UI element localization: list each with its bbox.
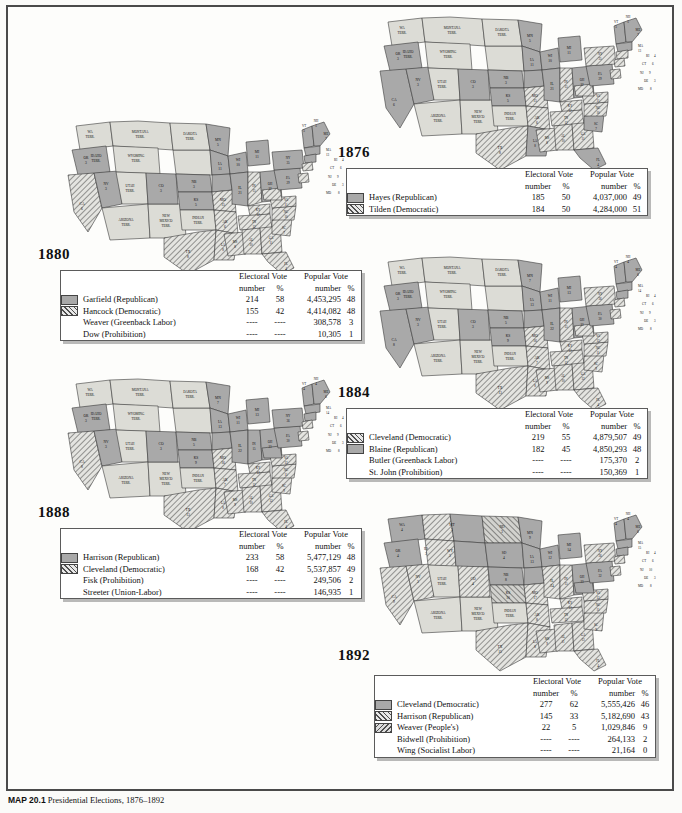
- legend-swatch-democratic: [61, 564, 78, 574]
- svg-text:14: 14: [638, 289, 642, 293]
- pop-number: 308,578: [291, 317, 341, 329]
- results-table-1888: Electoral Vote Popular Vote number % num…: [60, 528, 362, 599]
- svg-text:NJ: NJ: [640, 311, 644, 315]
- svg-text:8: 8: [338, 191, 340, 195]
- svg-text:13: 13: [186, 513, 190, 517]
- svg-text:TERR.: TERR.: [473, 617, 482, 621]
- svg-text:22: 22: [580, 83, 584, 87]
- pop-number: 21,164: [585, 745, 635, 757]
- ev-pct: 50: [555, 192, 577, 204]
- svg-text:TERR.: TERR.: [505, 357, 514, 361]
- svg-text:3: 3: [160, 447, 162, 451]
- ev-pct: ----: [563, 745, 585, 757]
- svg-text:UTAH: UTAH: [438, 320, 448, 324]
- svg-text:ARIZONA: ARIZONA: [431, 114, 446, 118]
- svg-text:TN: TN: [564, 116, 569, 120]
- table-row: Fisk (Prohibition) ---- ---- 249,506 2: [61, 575, 361, 587]
- ev-number: 168: [235, 564, 269, 576]
- svg-text:CO: CO: [159, 184, 164, 188]
- svg-text:ME: ME: [324, 132, 329, 136]
- svg-text:8: 8: [187, 255, 189, 259]
- table-group-header-row: Electoral Vote Popular Vote: [61, 271, 361, 283]
- svg-text:ARIZONA: ARIZONA: [119, 218, 134, 222]
- ev-pct: 42: [269, 564, 291, 576]
- ev-number-header: number: [235, 541, 269, 553]
- candidate-name: Cleveland (Democratic): [369, 432, 521, 444]
- candidate-name: Butler (Greenback Labor): [369, 455, 521, 467]
- svg-text:8: 8: [650, 327, 652, 331]
- svg-text:MA: MA: [638, 44, 644, 48]
- svg-text:WYOMING: WYOMING: [440, 290, 457, 294]
- svg-text:10: 10: [249, 501, 253, 505]
- svg-text:13: 13: [581, 638, 585, 642]
- svg-text:AL: AL: [561, 374, 565, 378]
- svg-text:5: 5: [195, 203, 197, 207]
- ev-pct: ----: [269, 587, 291, 599]
- pop-number: 175,370: [577, 455, 627, 467]
- svg-text:CO: CO: [159, 442, 164, 446]
- svg-text:4: 4: [342, 416, 344, 420]
- svg-text:IA: IA: [530, 58, 534, 62]
- candidate-name: Cleveland (Democratic): [83, 564, 235, 576]
- svg-text:NB: NB: [504, 76, 510, 80]
- svg-text:FL: FL: [596, 158, 600, 162]
- svg-text:OR: OR: [396, 52, 402, 56]
- svg-text:ND: ND: [499, 525, 505, 529]
- svg-text:30: 30: [598, 317, 602, 321]
- candidate-name: Harrison (Republican): [83, 552, 235, 564]
- table-row: St. John (Prohibition) ---- ---- 150,369…: [347, 467, 647, 479]
- svg-text:13: 13: [530, 303, 534, 307]
- svg-text:15: 15: [564, 325, 568, 329]
- ev-number: ----: [235, 317, 269, 329]
- pop-pct-header: %: [627, 181, 647, 193]
- svg-text:13: 13: [638, 49, 642, 53]
- svg-text:TERR.: TERR.: [91, 417, 100, 421]
- pop-number: 4,453,295: [291, 294, 341, 306]
- svg-text:SC: SC: [594, 623, 598, 627]
- svg-text:TERR.: TERR.: [91, 159, 100, 163]
- svg-text:AR: AR: [535, 116, 541, 120]
- ev-pct: ----: [269, 329, 291, 341]
- svg-text:29: 29: [598, 77, 602, 81]
- svg-text:MO: MO: [532, 94, 538, 98]
- svg-text:10: 10: [561, 139, 565, 143]
- svg-text:8: 8: [393, 343, 395, 347]
- svg-text:11: 11: [530, 63, 534, 67]
- svg-text:WI: WI: [548, 551, 553, 555]
- svg-text:FL: FL: [596, 659, 600, 663]
- svg-text:AL: AL: [561, 134, 565, 138]
- svg-text:IL: IL: [238, 186, 241, 190]
- svg-text:WI: WI: [548, 54, 553, 58]
- svg-text:5: 5: [217, 143, 219, 147]
- svg-text:DE: DE: [644, 576, 648, 580]
- table-row: Cleveland (Democratic) 277 62 5,555,426 …: [375, 699, 655, 711]
- svg-text:7: 7: [529, 279, 531, 283]
- svg-text:MD: MD: [326, 449, 332, 453]
- svg-text:MO: MO: [220, 456, 226, 460]
- svg-text:3: 3: [417, 580, 419, 584]
- svg-text:NV: NV: [415, 318, 421, 322]
- svg-text:8: 8: [650, 584, 652, 588]
- svg-text:MEXICO: MEXICO: [471, 115, 485, 119]
- pop-number: 249,506: [291, 575, 341, 587]
- svg-text:KS: KS: [506, 94, 511, 98]
- svg-text:OH: OH: [268, 182, 273, 186]
- svg-text:VT: VT: [302, 124, 306, 128]
- svg-text:TERR.: TERR.: [433, 616, 442, 620]
- svg-text:CO: CO: [471, 320, 476, 324]
- svg-text:OR: OR: [396, 549, 402, 553]
- svg-text:13: 13: [218, 425, 222, 429]
- svg-text:11: 11: [284, 203, 287, 207]
- svg-text:MS: MS: [233, 498, 238, 502]
- svg-text:13: 13: [530, 560, 534, 564]
- svg-text:3: 3: [397, 57, 399, 61]
- svg-text:ARIZONA: ARIZONA: [431, 611, 446, 615]
- ev-number-header: number: [521, 421, 555, 433]
- svg-text:TERR.: TERR.: [397, 271, 406, 275]
- svg-text:MEXICO: MEXICO: [471, 355, 485, 359]
- svg-text:4: 4: [654, 551, 656, 555]
- table-subheader-row: number % number %: [347, 181, 647, 193]
- ev-number: ----: [235, 575, 269, 587]
- svg-text:MO: MO: [220, 198, 226, 202]
- svg-text:9: 9: [649, 71, 651, 75]
